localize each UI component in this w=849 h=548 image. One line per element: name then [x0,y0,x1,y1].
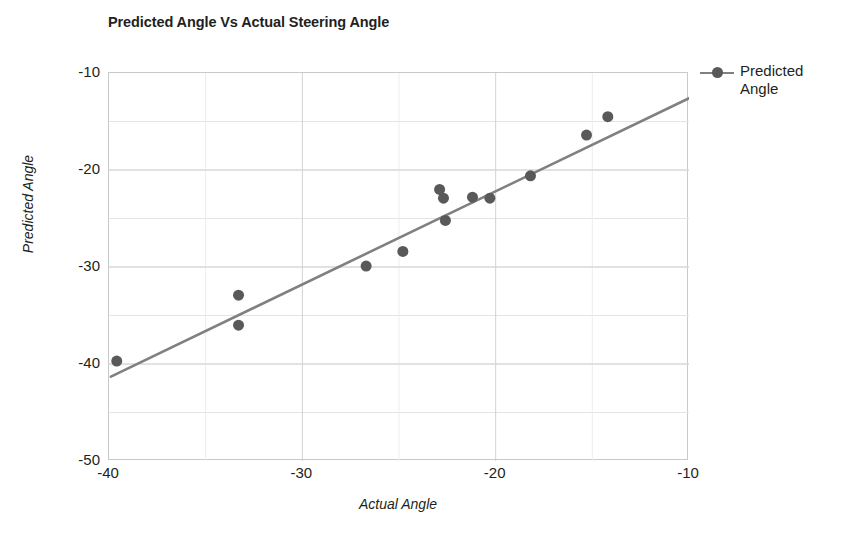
scatter-markers [111,111,613,366]
y-tick-label: -10 [52,63,100,80]
x-tick-label: -40 [78,464,138,481]
y-tick-label: -40 [52,354,100,371]
trendline-group [111,98,689,376]
plot-svg [109,73,689,461]
chart-legend: Predicted Angle [700,62,840,99]
x-axis-title: Actual Angle [108,496,688,512]
plot-area [108,72,688,460]
x-axis-tick-labels: -40-30-20-10 [108,464,688,492]
y-tick-label: -30 [52,257,100,274]
x-tick-label: -20 [465,464,525,481]
legend-label-predicted-angle: Predicted Angle [740,62,803,99]
legend-label-line1: Predicted [740,62,803,80]
legend-marker-icon [700,64,734,82]
x-tick-label: -30 [271,464,331,481]
y-axis-title: Predicted Angle [20,104,36,304]
legend-dot-icon [712,67,723,78]
legend-label-line2: Angle [740,80,803,98]
x-tick-label: -10 [658,464,718,481]
chart-title: Predicted Angle Vs Actual Steering Angle [108,14,389,30]
chart-container: Predicted Angle Vs Actual Steering Angle… [0,0,849,548]
y-tick-label: -20 [52,160,100,177]
y-axis-tick-labels: -10-20-30-40-50 [46,72,100,460]
